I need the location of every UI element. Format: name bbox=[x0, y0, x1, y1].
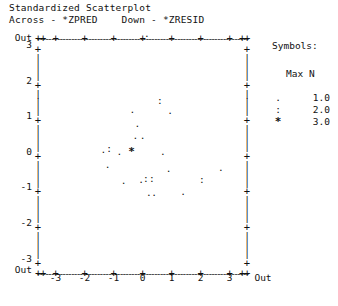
axis-tick: + bbox=[82, 268, 88, 278]
data-point: . bbox=[166, 165, 172, 175]
plot-bottom-border: ----------------------------------------… bbox=[38, 269, 248, 279]
data-point: * bbox=[128, 147, 135, 157]
y-axis-label: -1 bbox=[2, 181, 32, 192]
data-point: . bbox=[144, 29, 150, 39]
axis-tick: + bbox=[82, 33, 88, 43]
y-axis-label: -2 bbox=[2, 217, 32, 228]
data-point: . bbox=[121, 176, 127, 186]
axis-tick: + bbox=[33, 258, 43, 268]
legend-symbol: * bbox=[272, 116, 284, 127]
axis-tick: + bbox=[111, 268, 117, 278]
data-point: : bbox=[157, 96, 163, 106]
data-point: . bbox=[105, 160, 111, 170]
axis-tick: + bbox=[242, 258, 252, 268]
legend-column-header: Max N bbox=[286, 68, 315, 79]
plot-area: ----------------------------------------… bbox=[38, 40, 248, 285]
scatterplot-output: Standardized Scatterplot Across - *ZPRED… bbox=[0, 0, 338, 306]
axis-tick: + bbox=[198, 33, 204, 43]
data-point: . bbox=[180, 187, 186, 197]
legend-value: 1.0 bbox=[300, 92, 330, 103]
legend-value: 2.0 bbox=[300, 104, 330, 115]
y-axis-label: Out bbox=[2, 264, 32, 275]
data-point: : bbox=[149, 174, 155, 184]
legend-symbol: . bbox=[272, 92, 284, 103]
axis-tick: + bbox=[169, 33, 175, 43]
legend-heading: Symbols: bbox=[272, 40, 318, 51]
plot-right-axis: +|||+|||+|||+|||+|||+|||+ bbox=[242, 40, 252, 285]
y-axis-label: 1 bbox=[2, 110, 32, 121]
data-point: : bbox=[199, 175, 205, 185]
y-axis-label: 0 bbox=[2, 146, 32, 157]
axis-tick: + bbox=[53, 33, 59, 43]
data-point: . bbox=[134, 119, 140, 129]
x-axis-label: Out bbox=[250, 272, 276, 283]
legend-symbol: : bbox=[272, 104, 284, 115]
axis-tick: + bbox=[53, 268, 59, 278]
axis-tick: + bbox=[227, 33, 233, 43]
axis-tick: + bbox=[140, 268, 146, 278]
legend-value: 3.0 bbox=[300, 116, 330, 127]
page-title: Standardized Scatterplot bbox=[9, 2, 151, 13]
data-point: . bbox=[218, 164, 224, 174]
data-point: . bbox=[116, 147, 122, 157]
axis-tick: + bbox=[169, 268, 175, 278]
data-point: : bbox=[106, 145, 112, 155]
y-axis-label: 2 bbox=[2, 75, 32, 86]
axes-description: Across - *ZPRED Down - *ZRESID bbox=[9, 14, 204, 25]
y-axis-label: -3 bbox=[2, 253, 32, 264]
data-point: . bbox=[160, 147, 166, 157]
data-point: . bbox=[151, 188, 157, 198]
data-point: . bbox=[167, 107, 173, 117]
data-point: . bbox=[132, 131, 138, 141]
plot-left-axis: +|||+|||+|||+|||+|||+|||+ bbox=[33, 40, 43, 285]
axis-tick: + bbox=[111, 33, 117, 43]
y-axis-label: 3 bbox=[2, 39, 32, 50]
axis-tick: + bbox=[198, 268, 204, 278]
data-point: . bbox=[140, 131, 146, 141]
axis-tick: + bbox=[227, 268, 233, 278]
data-point: . bbox=[129, 105, 135, 115]
